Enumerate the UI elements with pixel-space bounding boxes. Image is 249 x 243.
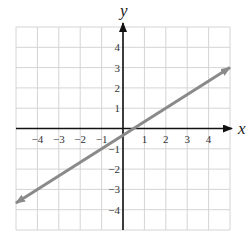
x-tick-label: −2 <box>74 133 86 145</box>
y-tick-label: 3 <box>115 62 121 74</box>
x-tick-label: −3 <box>53 133 65 145</box>
y-axis-label: y <box>118 1 128 20</box>
axes <box>16 23 232 230</box>
x-tick-label: 4 <box>206 133 212 145</box>
y-tick-label: −2 <box>108 163 120 175</box>
x-axis-label: x <box>237 119 246 138</box>
x-tick-label: −1 <box>96 133 108 145</box>
x-tick-label: −4 <box>32 133 44 145</box>
coordinate-plane: −4−3−2−11234−4−3−2−11234 x y <box>0 0 249 243</box>
x-tick-label: 1 <box>142 133 148 145</box>
y-tick-label: 4 <box>115 41 121 53</box>
y-tick-label: 1 <box>115 102 121 114</box>
y-tick-label: −3 <box>108 183 120 195</box>
x-tick-label: 2 <box>163 133 169 145</box>
y-tick-label: −4 <box>108 204 120 216</box>
y-tick-label: 2 <box>115 82 121 94</box>
x-tick-label: 3 <box>184 133 190 145</box>
